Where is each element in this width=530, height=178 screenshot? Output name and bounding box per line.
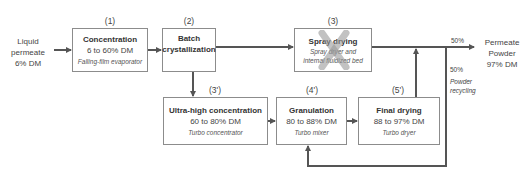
step-number-1: (1) [95, 16, 125, 26]
step-title: Granulation [289, 105, 334, 116]
step-title: Ultra-high concentration [169, 105, 262, 116]
step-dm-range: 6 to 60% DM [87, 45, 133, 57]
step-equipment: Falling-film evaporator [78, 57, 142, 66]
granulation-box: Granulation 80 to 88% DM Turbo mixer [276, 97, 347, 145]
step-equipment-line2: internal fluidized bed [303, 56, 363, 65]
final-drying-box: Final drying 88 to 97% DM Turbo dryer [358, 97, 440, 145]
output-line3: 97% DM [477, 59, 527, 70]
step-title: Concentration [83, 34, 137, 45]
step-title-line2: crystallization [162, 44, 215, 55]
output-line2: Powder [477, 48, 527, 59]
output-line1: Permeate [477, 37, 527, 48]
step-number-4prime: (4') [297, 85, 327, 95]
output-label: Permeate Powder 97% DM [477, 37, 527, 70]
step-title-line1: Batch [178, 33, 200, 44]
batch-crystallization-box: Batch crystallization [162, 28, 216, 72]
recycle-split-pct: 50% [450, 65, 463, 74]
input-label: Liquid permeate 6% DM [4, 36, 52, 69]
step-title: Spray drying [309, 36, 358, 47]
step-equipment: Turbo dryer [382, 128, 415, 137]
step-dm-range: 60 to 80% DM [190, 116, 241, 128]
step-number-5prime: (5') [383, 85, 413, 95]
concentration-box: Concentration 6 to 60% DM Falling-film e… [72, 28, 148, 72]
step-dm-range: 88 to 97% DM [374, 116, 425, 128]
recycle-label-line2: recycling [450, 86, 476, 95]
output-split-pct: 50% [451, 36, 464, 45]
ultra-high-concentration-box: Ultra-high concentration 60 to 80% DM Tu… [163, 97, 268, 145]
step-number-2: (2) [174, 16, 204, 26]
step-number-3: (3) [318, 16, 348, 26]
step-dm-range: 80 to 88% DM [286, 116, 337, 128]
step-equipment: Turbo mixer [294, 128, 328, 137]
recycle-label-line1: Powder [450, 77, 472, 86]
step-equipment-line1: Spray dryer and [310, 47, 356, 56]
step-equipment: Turbo concentrator [188, 128, 242, 137]
input-line1: Liquid [4, 36, 52, 47]
step-number-3prime: (3') [200, 85, 230, 95]
input-line3: 6% DM [4, 58, 52, 69]
input-line2: permeate [4, 47, 52, 58]
spray-drying-box: Spray drying Spray dryer and internal fl… [294, 28, 372, 72]
step-title: Final drying [376, 105, 421, 116]
